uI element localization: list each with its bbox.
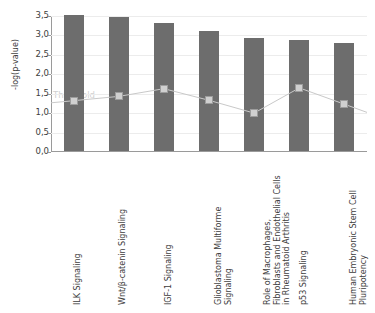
threshold-marker <box>340 100 348 108</box>
bar-chart: -log(p-value) 0,00,51,01,52,02,53,03,5 T… <box>0 0 375 313</box>
y-axis-tick-label: 0,0 <box>27 147 49 156</box>
y-axis-tick-label: 2,0 <box>27 69 49 78</box>
y-axis-tick-label: 3,5 <box>27 11 49 20</box>
x-axis-category-label: Human Embryonic Stem Cell Pluripotency <box>349 155 368 305</box>
y-axis-tick-label: 0,5 <box>27 128 49 137</box>
x-axis-category-label: IGF-1 Signaling <box>164 155 174 305</box>
threshold-marker <box>115 92 123 100</box>
y-axis-tick-mark <box>48 152 51 153</box>
y-axis-tick-label: 1,0 <box>27 108 49 117</box>
y-axis-title: -log(p-value) <box>11 19 20 111</box>
x-axis-category-label: Wnt/β-catenin Signaling <box>118 155 128 305</box>
y-axis-tick-label: 3,0 <box>27 30 49 39</box>
threshold-marker <box>295 84 303 92</box>
x-axis-category-labels: ILK SignalingWnt/β-catenin SignalingIGF-… <box>51 155 367 313</box>
plot-area: Threshold <box>51 16 367 152</box>
y-axis-tick-label: 2,5 <box>27 50 49 59</box>
threshold-marker <box>160 85 168 93</box>
x-axis-category-label: ILK Signaling <box>73 155 83 305</box>
y-axis-tick-label: 1,5 <box>27 89 49 98</box>
threshold-marker <box>70 97 78 105</box>
x-axis-category-label: p53 Signaling <box>299 155 309 305</box>
threshold-marker <box>250 109 258 117</box>
threshold-marker <box>205 96 213 104</box>
x-axis-category-label: Role of Macrophages, Fibroblasts and End… <box>263 155 292 305</box>
x-axis-category-label: Glioblastoma Multiforme Signaling <box>214 155 233 305</box>
threshold-line <box>51 16 367 152</box>
y-axis-tick-labels: 0,00,51,01,52,02,53,03,5 <box>25 0 49 313</box>
